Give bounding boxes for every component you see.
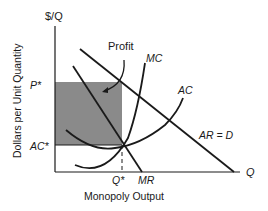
mc-label: MC bbox=[146, 52, 163, 64]
y-axis-title: Dollars per Unit Quantity bbox=[11, 43, 23, 158]
x-axis-title: Monopoly Output bbox=[84, 190, 164, 202]
monopoly-diagram: $/Q Q Profit MC AC AR = D MR P* AC* Q* M… bbox=[0, 0, 268, 211]
q-star-label: Q* bbox=[112, 174, 125, 186]
mr-label: MR bbox=[138, 174, 155, 186]
profit-label: Profit bbox=[108, 40, 134, 52]
ac-label: AC bbox=[177, 84, 193, 96]
ar-d-label: AR = D bbox=[198, 129, 234, 141]
y-axis-top-label: $/Q bbox=[45, 10, 63, 22]
p-star-label: P* bbox=[30, 79, 42, 91]
x-axis-end-label: Q bbox=[246, 166, 255, 178]
ac-star-label: AC* bbox=[29, 140, 50, 152]
